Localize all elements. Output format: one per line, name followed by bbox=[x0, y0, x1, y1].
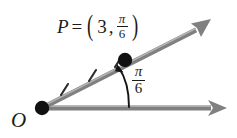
angle-measure-fraction: π 6 bbox=[132, 64, 145, 96]
origin-label: O bbox=[11, 110, 26, 131]
close-paren: ) bbox=[131, 14, 137, 36]
point-variable-p: P bbox=[57, 17, 69, 36]
origin-marker bbox=[35, 101, 49, 115]
angle-measure-denominator: 6 bbox=[134, 81, 144, 96]
angle-arc-arrow bbox=[115, 64, 129, 107]
angle-measure-label: π 6 bbox=[132, 64, 145, 96]
angle-fraction: π 6 bbox=[117, 12, 128, 40]
coordinate-comma: , bbox=[109, 17, 114, 36]
terminal-ray-arrowhead-icon bbox=[191, 19, 211, 37]
angle-numerator: π bbox=[118, 12, 127, 25]
polar-axis-ray bbox=[42, 100, 227, 116]
point-marker-p bbox=[118, 53, 132, 67]
angle-denominator: 6 bbox=[118, 27, 127, 40]
open-paren: ( bbox=[87, 14, 93, 36]
radius-value: 3 bbox=[97, 17, 107, 36]
equals-sign: = bbox=[72, 17, 83, 36]
angle-measure-numerator: π bbox=[134, 64, 144, 79]
radial-tick-marks bbox=[61, 56, 122, 95]
point-coordinate-label: P = ( 3 , π 6 ) bbox=[57, 12, 140, 40]
angle-arc-curve bbox=[119, 68, 129, 107]
polar-diagram-figure: P = ( 3 , π 6 ) π 6 O bbox=[0, 0, 237, 138]
